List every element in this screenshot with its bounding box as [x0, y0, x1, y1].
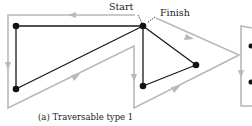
- traversal-diagram: Start Finish (a) Traversable type 1: [0, 0, 252, 126]
- node: [140, 23, 147, 30]
- graph-edges: [16, 26, 196, 89]
- finish-label: Finish: [160, 7, 190, 18]
- partial-next-figure: [238, 26, 252, 106]
- node: [140, 83, 147, 90]
- graph-nodes: [13, 23, 200, 93]
- start-label: Start: [109, 1, 134, 12]
- node: [193, 62, 200, 69]
- node: [13, 86, 20, 93]
- arrow-down-icon: [131, 74, 137, 82]
- label-pointers: [138, 15, 155, 23]
- arrow-left-icon: [68, 12, 76, 18]
- node: [13, 23, 20, 30]
- figure-caption: (a) Traversable type 1: [38, 112, 133, 122]
- arrow-down-icon: [5, 62, 11, 70]
- arrow-upright-icon: [71, 74, 80, 81]
- arrow-upright-icon: [171, 86, 180, 93]
